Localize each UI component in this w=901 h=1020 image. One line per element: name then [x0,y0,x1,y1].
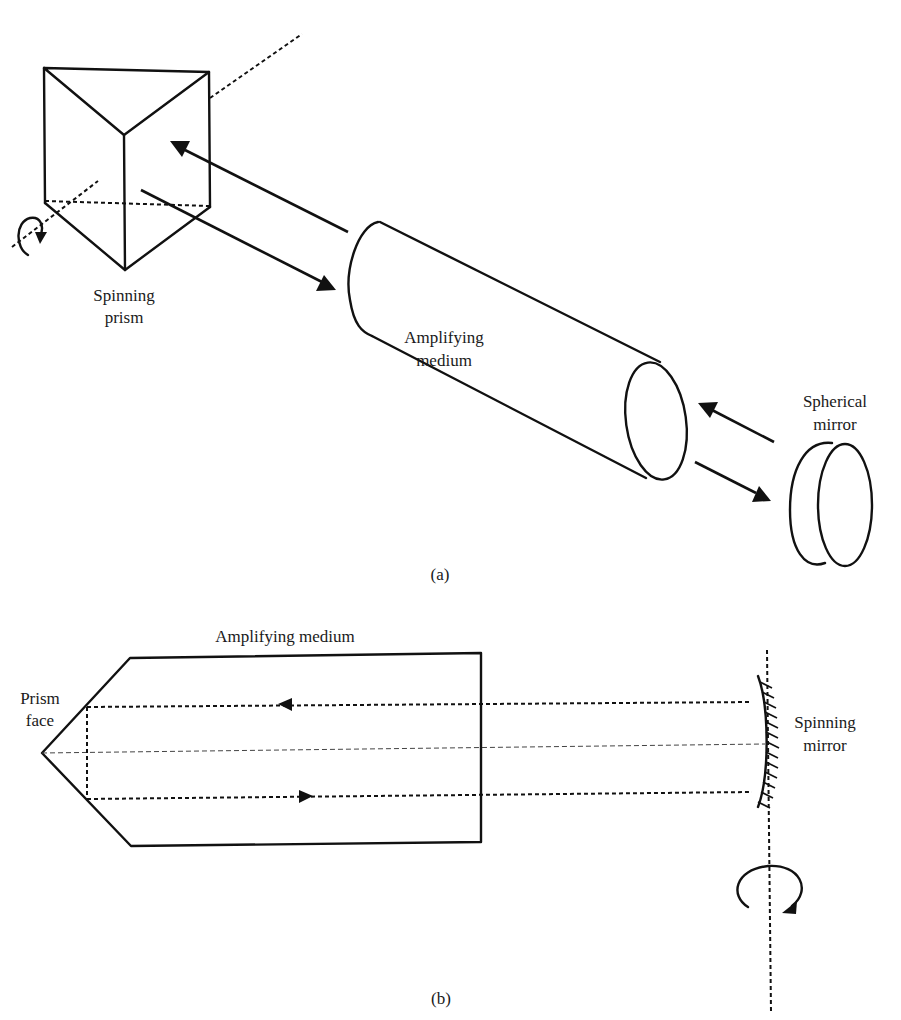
amplifying-medium-outline [42,653,481,846]
spherical-mirror [790,443,872,566]
beam-arrow-outgoing [141,190,336,291]
spinning-prism [44,68,210,270]
prism-face-label-line1: Prism [20,689,60,708]
spinning-mirror [758,676,779,808]
laser-diagram: Amplifying medium Spinning prism Spheric… [0,0,901,1020]
beam-path-outgoing [87,790,752,803]
amplifying-medium-cylinder [349,222,694,484]
panel-a-caption: (a) [431,565,450,584]
spinning-mirror-label-line1: Spinning [794,713,856,732]
medium-label-line1: Amplifying [404,328,484,347]
panel-a: Amplifying medium Spinning prism Spheric… [12,34,872,584]
spinning-mirror-label-line2: mirror [803,736,847,755]
beam-arrow-to-mirror [695,462,771,502]
panel-b: Amplifying medium Prism face [20,627,856,1012]
mirror-label-line2: mirror [813,415,857,434]
prism-label-line2: prism [105,308,144,327]
medium-label-line2: medium [416,351,472,370]
medium-b-label: Amplifying medium [215,627,354,646]
panel-b-caption: (b) [431,989,451,1008]
prism-label-line1: Spinning [93,286,155,305]
beam-path-return [87,698,752,711]
prism-face-label-line2: face [26,711,54,730]
mirror-label-line1: Spherical [803,392,867,411]
prism-rotation-axis [12,34,302,247]
beam-arrow-to-medium [698,402,774,442]
optical-axis [42,744,765,753]
